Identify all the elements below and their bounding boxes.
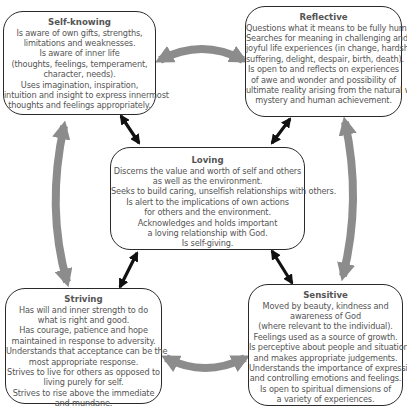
sensitive-line: awareness of God xyxy=(249,311,402,321)
loving-line: a loving relationship with God. xyxy=(111,228,304,238)
striving-line: Has courage, patience and hope xyxy=(6,325,161,335)
sensitive-line: a variety of experiences. xyxy=(249,394,402,404)
reflective-line: Searches for meaning in challenging and xyxy=(246,33,401,43)
reflective-line: joyful life experiences (in change, hard… xyxy=(246,43,401,53)
self-knowing-line: (thoughts, feelings, temperament, xyxy=(4,59,155,69)
sensitive-line: Moved by beauty, kindness and xyxy=(249,301,402,311)
sensitive-line: and controlling emotions and feelings. xyxy=(249,373,402,383)
self-knowing-line: intuition and insight to express innermo… xyxy=(4,90,155,100)
loving-title: Loving xyxy=(111,155,304,166)
curved-arrow-reflective-sensitive xyxy=(343,122,353,276)
reflective-line: Questions what it means to be fully huma… xyxy=(246,23,401,33)
self-knowing-line: Is aware of inner life xyxy=(4,48,155,58)
loving-line: Is alert to the implications of own acti… xyxy=(111,197,304,207)
loving-line: Seeks to build caring, unselfish relatio… xyxy=(111,186,304,196)
reflective-line: mystery and human achievement. xyxy=(246,95,401,105)
striving-line: Understands that acceptance can be the xyxy=(6,346,161,356)
reflective-title: Reflective xyxy=(246,12,401,23)
striving-line: Has will and inner strength to do xyxy=(6,305,161,315)
loving-line: Is self-giving. xyxy=(111,238,304,248)
self-knowing-line: limitations and weaknesses. xyxy=(4,38,155,48)
sensitive-line: Understands the importance of expressing xyxy=(249,363,402,373)
striving-line: Strives to live for others as opposed to xyxy=(6,367,161,377)
sensitive-box: Sensitive Moved by beauty, kindness and … xyxy=(248,284,403,406)
reflective-line: ultimate reality arising from the natura… xyxy=(246,85,401,95)
straight-arrow-loving-selfknowing xyxy=(121,116,139,143)
curved-arrow-striving-selfknowing xyxy=(56,126,67,282)
sensitive-line: Is open to spiritual dimensions of xyxy=(249,384,402,394)
striving-title: Striving xyxy=(6,294,161,305)
loving-line: as well as the environment. xyxy=(111,176,304,186)
sensitive-title: Sensitive xyxy=(249,290,402,301)
self-knowing-line: thoughts and feelings appropriately. xyxy=(4,100,155,110)
sensitive-line: Is perceptive about people and situation… xyxy=(249,342,402,352)
loving-box: Loving Discerns the value and worth of s… xyxy=(110,147,305,250)
reflective-line: of awe and wonder and possibility of xyxy=(246,75,401,85)
reflective-line: Is open to and reflects on experiences xyxy=(246,64,401,74)
reflective-line: suffering, delight, despair, birth, deat… xyxy=(246,54,401,64)
curved-arrow-selfknowing-reflective xyxy=(160,49,243,60)
self-knowing-box: Self-knowing Is aware of own gifts, stre… xyxy=(3,11,156,115)
loving-line: for others and the environment. xyxy=(111,207,304,217)
striving-line: most appropriate response. xyxy=(6,357,161,367)
striving-line: and mundane. xyxy=(6,398,161,408)
self-knowing-line: character, needs). xyxy=(4,69,155,79)
curved-arrow-striving-sensitive xyxy=(166,358,245,368)
self-knowing-title: Self-knowing xyxy=(4,17,155,28)
self-knowing-line: Is aware of own gifts, strengths, xyxy=(4,28,155,38)
reflective-box: Reflective Questions what it means to be… xyxy=(245,6,402,117)
striving-line: what is right and good. xyxy=(6,315,161,325)
straight-arrow-loving-reflective xyxy=(272,119,290,143)
loving-line: Discerns the value and worth of self and… xyxy=(111,166,304,176)
striving-line: maintained in response to adversity. xyxy=(6,336,161,346)
straight-arrow-loving-striving xyxy=(120,253,137,287)
striving-line: living purely for self. xyxy=(6,377,161,387)
self-knowing-line: Uses imagination, inspiration, xyxy=(4,80,155,90)
sensitive-line: and makes appropriate judgements. xyxy=(249,353,402,363)
striving-box: Striving Has will and inner strength to … xyxy=(5,288,162,404)
striving-line: Strives to rise above the immediate xyxy=(6,388,161,398)
straight-arrow-loving-sensitive xyxy=(272,251,292,283)
loving-line: Acknowledges and holds important xyxy=(111,218,304,228)
sensitive-line: (where relevant to the individual). xyxy=(249,321,402,331)
sensitive-line: Feelings used as a source of growth. xyxy=(249,332,402,342)
